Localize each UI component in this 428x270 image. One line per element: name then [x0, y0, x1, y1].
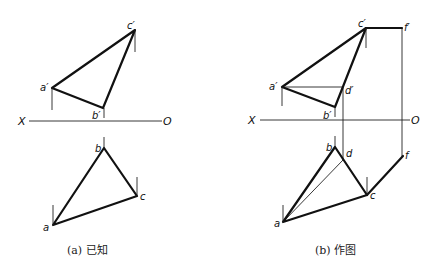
axis-label-o: O	[411, 114, 420, 127]
label-c-prime: c′	[127, 20, 135, 31]
label-f-prime: f′	[404, 22, 411, 33]
label-c-prime: c′	[358, 18, 366, 29]
label-d: d	[346, 148, 353, 159]
caption-b: (b) 作图	[315, 244, 356, 257]
figure-b: X O a′ b′ d′ c′ f′ a b d c f (b) 作图	[247, 18, 420, 257]
label-a-prime: a′	[269, 81, 278, 92]
label-b-prime: b′	[92, 110, 101, 121]
label-b-prime: b′	[323, 110, 332, 121]
top-view-triangle	[283, 147, 367, 222]
top-view-triangle	[53, 148, 137, 225]
axis-label-x: X	[247, 114, 256, 127]
figure-a: X O a′ b′ c′ a b c (a) 已知	[17, 20, 172, 257]
label-a-prime: a′	[40, 82, 49, 93]
label-d-prime: d′	[345, 85, 354, 96]
axis-label-o: O	[163, 115, 172, 128]
label-b: b	[95, 143, 101, 154]
axis-label-x: X	[17, 115, 26, 128]
label-a: a	[43, 222, 49, 233]
label-b: b	[326, 142, 332, 153]
front-view-triangle	[52, 30, 135, 108]
label-c: c	[370, 190, 376, 201]
label-c: c	[140, 191, 146, 202]
label-a: a	[274, 218, 280, 229]
label-f: f	[405, 150, 410, 161]
caption-a: (a) 已知	[67, 243, 108, 257]
projection-diagram: X O a′ b′ c′ a b c (a) 已知 X O	[0, 0, 428, 270]
